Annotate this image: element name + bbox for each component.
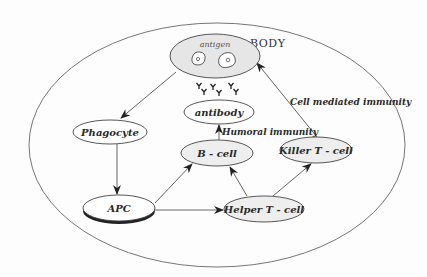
pathogen-cell-icon [219, 53, 236, 68]
node-label: Killer T - cell [278, 145, 353, 156]
antibody-glyphs [197, 83, 239, 96]
arrow-antigen-to-phagocyte [121, 72, 176, 118]
edge-label-humoral: Humoral immunity [221, 127, 319, 137]
node-label: APC [106, 203, 130, 214]
node-antibody: antibody [184, 100, 254, 124]
node-helper-t: Helper T - cell [223, 196, 305, 222]
node-b-cell: B - cell [181, 140, 253, 166]
node-label: B - cell [196, 148, 237, 159]
node-label: antigen [200, 40, 231, 49]
node-apc: APC [83, 195, 155, 224]
diagram-canvas: BODY antigenantibodyPhagocyteB - cellKil… [0, 0, 427, 277]
antibody-y-icon [202, 89, 207, 95]
node-antigen: antigen [170, 34, 260, 78]
antibody-y-icon [229, 83, 234, 89]
node-killer-t: Killer T - cell [278, 137, 353, 163]
node-label: Phagocyte [80, 127, 139, 138]
immune-response-diagram: BODY antigenantibodyPhagocyteB - cellKil… [0, 0, 427, 277]
antibody-y-icon [234, 89, 239, 95]
node-label: antibody [195, 107, 245, 118]
antibody-y-icon [211, 84, 216, 90]
pathogen-cell-icon [192, 52, 205, 65]
node-label: Helper T - cell [223, 204, 305, 215]
arrow-helper-t-to-killer-t [273, 164, 311, 196]
antibody-y-icon [217, 90, 222, 96]
arrow-helper-t-to-b-cell [230, 167, 247, 196]
arrow-apc-to-b-cell [155, 164, 192, 203]
edge-label-cell-mediated: Cell mediated immunity [290, 97, 412, 107]
antibody-y-icon [197, 83, 202, 89]
node-phagocyte: Phagocyte [73, 120, 147, 144]
